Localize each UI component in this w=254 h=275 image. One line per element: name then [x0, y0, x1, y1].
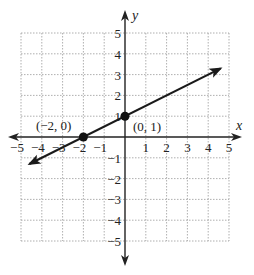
y-axis-label: y [130, 8, 139, 23]
data-point [121, 112, 130, 121]
axes [8, 10, 242, 266]
y-tick-label: 4 [115, 47, 122, 62]
x-tick-label: −4 [31, 140, 45, 155]
x-tick-label: 4 [205, 140, 212, 155]
coordinate-plane: −5−4−3−2−11234554321−1−2−3−4−5 (−2, 0)(0… [0, 0, 254, 275]
y-tick-label: −5 [107, 234, 121, 249]
x-axis-label: x [235, 118, 243, 133]
x-tick-label: 1 [143, 140, 150, 155]
x-tick-label: −5 [10, 140, 24, 155]
x-tick-label: 3 [184, 140, 191, 155]
y-tick-label: −3 [107, 192, 121, 207]
point-label: (0, 1) [133, 119, 161, 134]
line-arrow-start-icon [25, 155, 41, 170]
y-tick-label: −4 [107, 213, 121, 228]
y-tick-label: 3 [115, 68, 122, 83]
x-tick-label: 2 [163, 140, 170, 155]
y-tick-label: −2 [107, 172, 121, 187]
x-tick-label: 5 [226, 140, 233, 155]
y-tick-label: 2 [115, 88, 122, 103]
line-arrow-end-icon [209, 63, 225, 78]
x-tick-label: −1 [93, 140, 107, 155]
y-tick-label: 5 [115, 26, 122, 41]
y-tick-label: −1 [107, 151, 121, 166]
point-label: (−2, 0) [36, 118, 72, 133]
data-point [79, 133, 88, 142]
